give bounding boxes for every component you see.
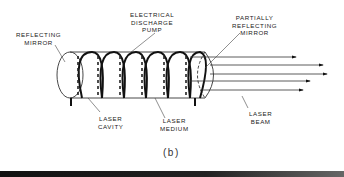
page-edge-bar — [0, 171, 344, 177]
leader-lines — [55, 33, 248, 118]
label-laser-medium: LASER MEDIUM — [160, 117, 189, 132]
figure-caption: (b) — [163, 147, 180, 158]
label-laser-beam: LASER BEAM — [249, 110, 272, 125]
support-legs — [71, 98, 195, 106]
label-partially-reflecting-mirror: PARTIALLY REFLECTING MIRROR — [232, 14, 277, 37]
label-electrical-discharge-pump: ELECTRICAL DISCHARGE PUMP — [130, 11, 174, 34]
label-laser-cavity: LASER CAVITY — [98, 115, 124, 130]
label-reflecting-mirror: REFLECTING MIRROR — [16, 31, 61, 46]
